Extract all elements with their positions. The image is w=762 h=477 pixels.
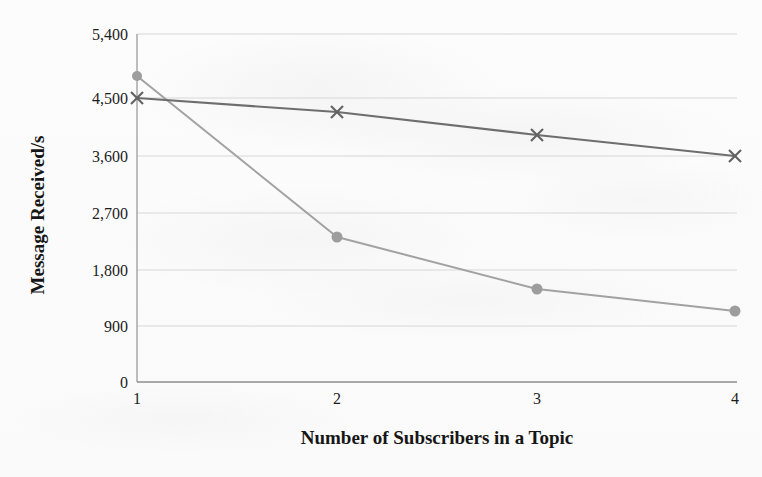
y-tick-4500: 4,500 [92,90,128,107]
line-chart: 5,400 4,500 3,600 2,700 1,800 900 0 1 2 … [0,0,762,477]
series-circle-marker-line [137,76,735,311]
y-tick-1800: 1,800 [92,262,128,279]
series-circle-marker-points [132,71,741,317]
y-tick-900: 900 [104,318,128,335]
y-tick-labels: 5,400 4,500 3,600 2,700 1,800 900 0 [92,26,128,391]
y-tick-3600: 3,600 [92,148,128,165]
x-tick-labels: 1 2 3 4 [133,390,739,407]
gridlines [137,34,737,326]
y-tick-5400: 5,400 [92,26,128,43]
data-point-circle-1 [132,71,142,81]
y-tick-0: 0 [120,374,128,391]
x-tick-1: 1 [133,390,141,407]
x-tick-2: 2 [333,390,341,407]
data-point-circle-3 [532,284,543,295]
x-axis-title: Number of Subscribers in a Topic [301,427,574,448]
y-tick-2700: 2,700 [92,205,128,222]
y-axis-title: Message Received/s [27,136,48,295]
chart-svg: 5,400 4,500 3,600 2,700 1,800 900 0 1 2 … [0,0,762,477]
series-x-marker-points [131,92,741,162]
data-point-circle-2 [332,232,343,243]
data-point-circle-4 [730,306,741,317]
x-tick-3: 3 [533,390,541,407]
x-tick-4: 4 [731,390,739,407]
